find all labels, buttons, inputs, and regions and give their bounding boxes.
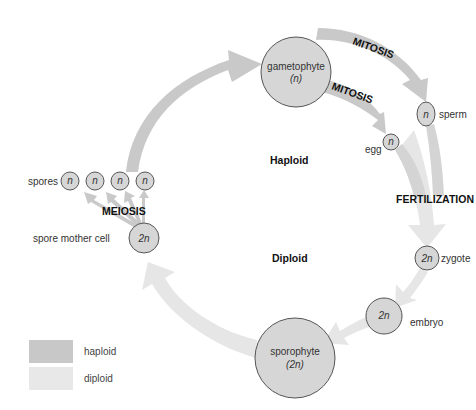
spore-2-ploidy: n [92,175,98,186]
sporophyte-to-spore-mother-cell-arrow [142,262,257,358]
spores-label: spores [28,176,58,187]
embryo-label: embryo [410,317,444,328]
fertilization-label: FERTILIZATION [396,193,474,205]
gametophyte-cell [261,37,331,107]
spore-mother-cell-ploidy: 2n [137,233,150,244]
meiosis-label: MEIOSIS [102,205,146,217]
diploid-region-label: Diploid [272,252,308,264]
spore-3-ploidy: n [117,175,123,186]
egg-label: egg [365,144,382,155]
gametophyte-label: gametophyte [267,61,325,72]
legend: haploid diploid [29,338,116,392]
spores-to-gametophyte-arrow [126,50,262,172]
legend-item-diploid: diploid [29,365,116,392]
sporophyte-label: sporophyte [270,346,320,357]
sperm-label: sperm [439,109,467,120]
haploid-swatch [29,340,73,363]
legend-label-diploid: diploid [84,373,113,384]
sporophyte-ploidy: (2n) [286,359,304,370]
gametophyte-ploidy: (n) [290,73,302,84]
sperm-ploidy: n [423,109,429,120]
spore-1-ploidy: n [67,175,73,186]
legend-label-haploid: haploid [84,346,116,357]
diploid-swatch [29,367,73,390]
spore-4-ploidy: n [142,175,148,186]
zygote-label: zygote [441,253,471,264]
embryo-ploidy: 2n [377,310,390,321]
zygote-to-embryo-arrow [395,268,428,308]
zygote-ploidy: 2n [420,253,433,264]
mitosis-sperm-label: MITOSIS [351,35,395,61]
haploid-region-label: Haploid [270,154,309,166]
egg-ploidy: n [388,136,394,147]
legend-item-haploid: haploid [29,338,116,365]
sporophyte-cell [255,318,335,398]
spore-mother-cell-label: spore mother cell [33,233,110,244]
